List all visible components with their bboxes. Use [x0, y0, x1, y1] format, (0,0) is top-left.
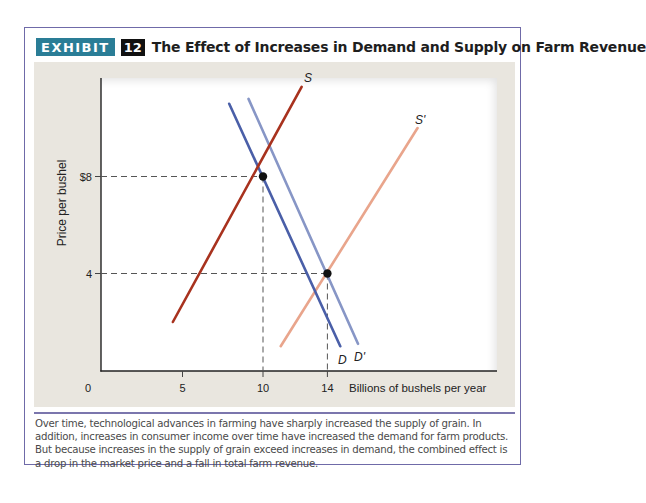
- x-axis-label: Billions of bushels per year: [349, 382, 487, 394]
- x-tick-label: 0: [85, 382, 91, 394]
- y-axis-label: Price per bushel: [55, 160, 69, 247]
- curve-label: D: [338, 353, 347, 367]
- y-tick-label: 4: [86, 268, 92, 280]
- equilibrium-point: [259, 172, 267, 180]
- equilibrium-point: [323, 269, 331, 277]
- curve-supply-Sprime: [281, 128, 418, 346]
- x-tick-label: 5: [179, 382, 185, 394]
- curve-label: D': [354, 350, 366, 364]
- x-tick-label: 10: [257, 382, 269, 394]
- curve-demand-Dprime: [249, 99, 358, 344]
- x-tick-label: 14: [321, 382, 333, 394]
- curve-label: S': [415, 113, 426, 127]
- curve-label: S: [304, 71, 312, 85]
- y-tick-label: $8: [80, 171, 92, 183]
- curve-demand-D: [229, 104, 340, 347]
